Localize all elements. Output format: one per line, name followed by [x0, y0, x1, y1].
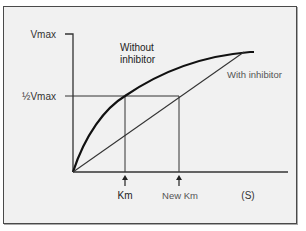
with-inhibitor-label: With inhibitor	[227, 69, 282, 80]
vmax-label: Vmax	[30, 29, 56, 40]
km-label: Km	[118, 190, 133, 201]
chart-svg: Vmax ½Vmax Without inhibitor With inhibi…	[0, 0, 306, 231]
without-inhibitor-label-1: Without	[120, 42, 154, 53]
y-axis	[65, 34, 73, 172]
with-inhibitor-line	[73, 52, 244, 172]
half-vmax-label: ½Vmax	[22, 91, 56, 102]
new-km-arrow-icon	[176, 175, 182, 186]
x-axis-label: (S)	[241, 190, 254, 201]
without-inhibitor-label-2: inhibitor	[120, 54, 156, 65]
km-arrow-icon	[122, 175, 128, 186]
new-km-label: New Km	[162, 190, 198, 201]
